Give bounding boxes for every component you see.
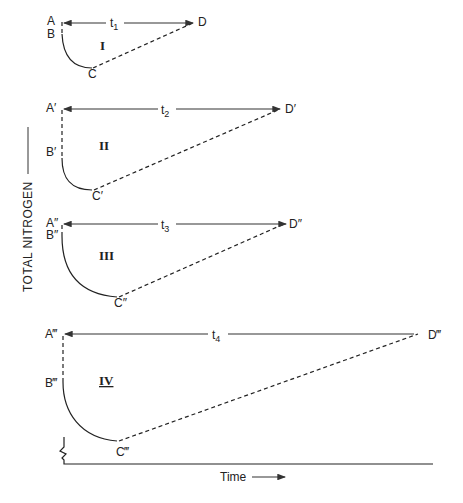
interval-label: t2 (161, 103, 169, 119)
point-a: A′ (46, 101, 57, 115)
b-c-curve (62, 158, 92, 190)
point-d: D (198, 15, 207, 29)
b-c-curve (63, 382, 117, 441)
point-a: A (47, 14, 55, 28)
c-d-dashed (94, 110, 278, 190)
point-b: B‴ (45, 376, 58, 390)
point-c: C‴ (116, 445, 130, 459)
panel-numeral: IV (99, 373, 114, 388)
point-b: B (47, 27, 55, 41)
c-d-dashed (93, 23, 193, 68)
b-c-curve (62, 236, 117, 297)
x-axis-label: Time (220, 470, 247, 484)
point-c: C′ (92, 189, 104, 203)
point-c: C″ (114, 296, 128, 310)
panel-numeral: II (99, 138, 109, 153)
point-d: D‴ (428, 328, 442, 342)
panel-numeral: I (100, 38, 105, 53)
svg-text:TOTAL NITROGEN: TOTAL NITROGEN (21, 181, 35, 292)
panel-i: A B C D t1 I (47, 14, 207, 81)
c-d-dashed (119, 224, 284, 297)
b-c-curve (62, 34, 92, 68)
interval-label: t3 (161, 218, 169, 234)
interval-label: t1 (110, 16, 118, 32)
point-c: C (88, 67, 97, 81)
nitrogen-cycle-diagram: TOTAL NITROGEN A B C D t1 I A′ B′ C′ D′ … (0, 0, 463, 503)
panel-ii: A′ B′ C′ D′ t2 II (46, 101, 297, 203)
point-d: D″ (289, 217, 303, 231)
point-b: B′ (46, 145, 57, 159)
panel-iv: A‴ B‴ C‴ D‴ t4 IV (45, 327, 442, 459)
y-axis-label: TOTAL NITROGEN (21, 127, 35, 292)
panel-iii: A″ B″ C″ D″ t3 III (46, 216, 303, 310)
c-d-dashed (119, 334, 418, 441)
point-a: A‴ (45, 327, 58, 341)
panel-numeral: III (99, 248, 114, 263)
point-d: D′ (285, 102, 297, 116)
interval-label: t4 (212, 328, 220, 344)
point-b: B″ (46, 228, 59, 242)
